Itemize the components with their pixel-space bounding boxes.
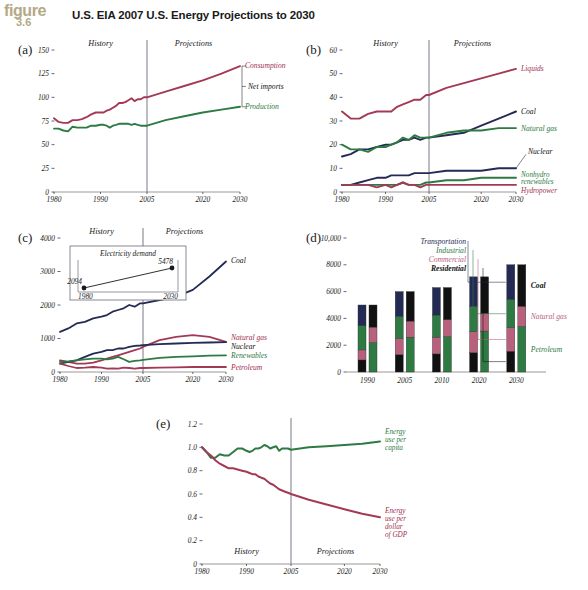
svg-text:0.2: 0.2 — [188, 536, 198, 545]
svg-text:History: History — [233, 547, 259, 556]
svg-text:8000: 8000 — [326, 260, 341, 269]
svg-text:Nuclear: Nuclear — [230, 342, 256, 351]
svg-text:1980: 1980 — [47, 195, 62, 204]
svg-text:2030: 2030 — [509, 195, 524, 204]
svg-text:Consumption: Consumption — [245, 61, 286, 70]
svg-text:2005: 2005 — [422, 195, 437, 204]
svg-text:Petroleum: Petroleum — [530, 345, 563, 354]
svg-text:Hydropower: Hydropower — [520, 187, 557, 195]
svg-text:2020: 2020 — [337, 567, 352, 576]
svg-text:1.2: 1.2 — [188, 420, 198, 429]
svg-text:Natural gas: Natural gas — [530, 312, 567, 321]
svg-text:1980: 1980 — [335, 195, 350, 204]
svg-text:2020: 2020 — [474, 195, 489, 204]
svg-text:Projections: Projections — [453, 39, 491, 48]
svg-text:Natural gas: Natural gas — [230, 333, 267, 342]
svg-text:1990: 1990 — [94, 375, 109, 384]
svg-text:1980: 1980 — [195, 567, 210, 576]
svg-text:50: 50 — [330, 69, 338, 78]
svg-text:2030: 2030 — [233, 195, 248, 204]
panel-a: (a)025507510012515019801990200520202030H… — [8, 32, 300, 224]
svg-text:0.4: 0.4 — [188, 513, 198, 522]
svg-text:renewables: renewables — [521, 178, 554, 186]
svg-text:1000: 1000 — [40, 334, 55, 343]
figure-number-badge: figure 3.6 — [4, 4, 56, 27]
svg-text:20: 20 — [330, 140, 338, 149]
figure-title: U.S. EIA 2007 U.S. Energy Projections to… — [72, 9, 315, 21]
svg-text:Energy: Energy — [384, 428, 406, 436]
svg-text:1990: 1990 — [239, 567, 254, 576]
panel-c: (c)0100020003000400019801990200520202030… — [8, 224, 300, 400]
svg-text:1980: 1980 — [78, 292, 93, 301]
svg-text:Liquids: Liquids — [520, 64, 544, 73]
svg-text:2005: 2005 — [284, 567, 299, 576]
svg-text:2000: 2000 — [326, 341, 341, 350]
svg-text:(d): (d) — [306, 230, 321, 245]
svg-text:5478: 5478 — [158, 257, 173, 266]
svg-text:(a): (a) — [18, 42, 32, 57]
svg-text:1.0: 1.0 — [188, 443, 198, 452]
panel-d: (d)0200040006000800010,00019902005201020… — [298, 224, 588, 400]
svg-text:Commercial: Commercial — [429, 255, 466, 264]
svg-text:2020: 2020 — [185, 375, 200, 384]
svg-text:1990: 1990 — [360, 376, 375, 385]
svg-text:Coal: Coal — [231, 256, 246, 265]
svg-text:History: History — [372, 39, 398, 48]
svg-text:150: 150 — [38, 46, 49, 55]
svg-text:3000: 3000 — [39, 267, 55, 276]
svg-text:0: 0 — [337, 368, 341, 377]
svg-text:(e): (e) — [156, 416, 170, 431]
svg-text:Natural gas: Natural gas — [520, 124, 557, 133]
svg-text:(c): (c) — [18, 230, 32, 245]
svg-text:Projections: Projections — [316, 547, 354, 556]
svg-text:1990: 1990 — [93, 195, 108, 204]
svg-text:Energy: Energy — [384, 507, 406, 515]
figure-header: figure 3.6 U.S. EIA 2007 U.S. Energy Pro… — [0, 0, 588, 30]
svg-text:40: 40 — [330, 93, 338, 102]
svg-text:2020: 2020 — [472, 376, 487, 385]
svg-text:Petroleum: Petroleum — [230, 363, 263, 372]
svg-text:2030: 2030 — [373, 567, 388, 576]
svg-text:10,000: 10,000 — [321, 234, 342, 243]
svg-text:use per: use per — [385, 515, 406, 523]
svg-text:1980: 1980 — [53, 375, 68, 384]
svg-text:75: 75 — [42, 117, 50, 126]
svg-text:25: 25 — [42, 164, 50, 173]
svg-text:0.8: 0.8 — [188, 466, 198, 475]
svg-text:4000: 4000 — [326, 314, 341, 323]
svg-text:50: 50 — [42, 140, 50, 149]
svg-text:Net imports: Net imports — [247, 82, 284, 91]
svg-text:2005: 2005 — [136, 375, 151, 384]
svg-text:6000: 6000 — [326, 287, 341, 296]
svg-text:2030: 2030 — [219, 375, 234, 384]
svg-text:Nuclear: Nuclear — [527, 147, 553, 156]
svg-text:Coal: Coal — [521, 107, 536, 116]
svg-text:2005: 2005 — [140, 195, 155, 204]
svg-text:History: History — [87, 39, 113, 48]
svg-text:Production: Production — [244, 102, 279, 111]
svg-text:(b): (b) — [306, 42, 321, 57]
panel-e: (e)00.20.40.60.81.01.2198019902005202020… — [148, 400, 448, 590]
svg-text:2094: 2094 — [67, 277, 82, 286]
svg-text:2030: 2030 — [509, 376, 524, 385]
svg-text:10: 10 — [330, 164, 338, 173]
svg-text:Renewables: Renewables — [230, 351, 267, 360]
svg-text:2000: 2000 — [40, 301, 55, 310]
svg-text:Coal: Coal — [531, 281, 547, 290]
svg-text:dollar: dollar — [385, 523, 403, 531]
svg-text:Industrial: Industrial — [435, 246, 466, 255]
svg-text:30: 30 — [329, 117, 338, 126]
svg-text:Residential: Residential — [430, 264, 467, 273]
svg-text:Projections: Projections — [174, 39, 212, 48]
svg-text:0.6: 0.6 — [188, 490, 198, 499]
svg-text:2030: 2030 — [163, 292, 178, 301]
svg-text:2005: 2005 — [397, 376, 412, 385]
svg-text:4000: 4000 — [40, 234, 55, 243]
svg-text:2010: 2010 — [435, 376, 450, 385]
svg-text:History: History — [88, 227, 114, 236]
svg-text:100: 100 — [38, 93, 49, 102]
svg-text:of GDP: of GDP — [385, 531, 408, 539]
svg-text:125: 125 — [38, 69, 49, 78]
svg-text:Electricity demand: Electricity demand — [99, 249, 156, 258]
svg-text:Transportation: Transportation — [420, 237, 466, 246]
